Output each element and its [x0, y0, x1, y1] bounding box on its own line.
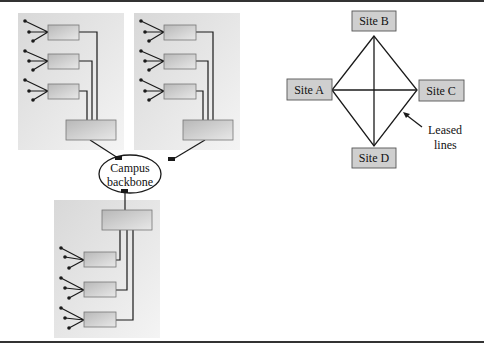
building-3 — [54, 193, 160, 338]
wan-diagram: Site B Site A Site C Site D Leased lines — [287, 11, 464, 168]
svg-text:Site D: Site D — [359, 151, 390, 165]
network-diagram: Campus backbone — [0, 0, 484, 357]
building-1 — [18, 13, 124, 158]
backbone-label-1: Campus — [110, 161, 150, 175]
site-a: Site A — [287, 79, 332, 100]
leased-lines-label-1: Leased — [428, 123, 462, 137]
building-2 — [134, 13, 240, 158]
site-d: Site D — [352, 148, 396, 168]
leased-lines-label-2: lines — [434, 138, 457, 152]
backbone-label-2: backbone — [107, 175, 153, 189]
site-b: Site B — [352, 11, 396, 31]
campus-backbone: Campus backbone — [99, 155, 175, 193]
svg-text:Site C: Site C — [426, 84, 456, 98]
site-c: Site C — [419, 80, 464, 101]
svg-text:Site B: Site B — [359, 14, 389, 28]
svg-text:Site A: Site A — [294, 83, 324, 97]
